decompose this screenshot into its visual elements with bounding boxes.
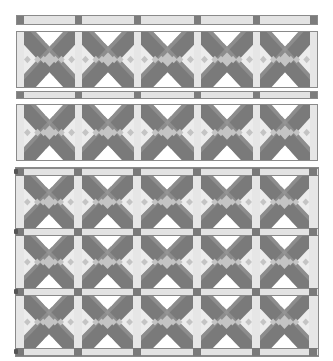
edge-marker: [14, 349, 18, 354]
cornerstone: [252, 228, 260, 236]
cornerstone: [193, 168, 201, 176]
vertical-sashing: [133, 236, 141, 288]
vertical-sashing: [310, 32, 318, 88]
cornerstone: [309, 168, 317, 176]
cornerstone: [193, 228, 201, 236]
vertical-sashing: [253, 32, 260, 88]
horizontal-sashing: [16, 168, 318, 176]
cornerstone: [134, 16, 141, 24]
vertical-sashing: [74, 296, 82, 348]
cornerstone: [74, 168, 82, 176]
quilt-block: [24, 296, 74, 348]
quilt-block: [24, 32, 75, 87]
cornerstone: [133, 348, 141, 356]
vertical-sashing: [194, 32, 201, 88]
cornerstone: [133, 168, 141, 176]
cornerstone: [253, 92, 260, 98]
quilt-block: [141, 176, 193, 228]
cornerstone: [252, 348, 260, 356]
cornerstone: [309, 348, 317, 356]
edge-marker: [14, 289, 18, 294]
cornerstone: [134, 92, 141, 98]
vertical-sashing: [253, 105, 260, 161]
vertical-sashing: [133, 296, 141, 348]
quilt-block: [24, 105, 75, 160]
vertical-sashing: [75, 105, 82, 161]
cornerstone: [17, 92, 24, 98]
quilt-block: [141, 296, 193, 348]
vertical-sashing: [134, 105, 141, 161]
quilt-block: [260, 176, 309, 228]
vertical-sashing: [309, 296, 318, 348]
cornerstone: [253, 16, 260, 24]
cornerstone: [133, 288, 141, 296]
vertical-sashing: [310, 105, 318, 161]
cornerstone: [17, 16, 24, 24]
block-row-1: [16, 31, 318, 88]
vertical-sashing: [16, 176, 24, 228]
vertical-sashing: [17, 32, 24, 88]
cornerstone: [193, 288, 201, 296]
cornerstone: [74, 288, 82, 296]
horizontal-sashing: [16, 348, 318, 356]
horizontal-sashing: [16, 288, 318, 296]
quilt-block: [260, 105, 310, 160]
quilt-block: [201, 105, 253, 160]
vertical-sashing: [309, 176, 318, 228]
cornerstone: [310, 16, 317, 24]
vertical-sashing: [133, 176, 141, 228]
vertical-sashing: [309, 236, 318, 288]
horizontal-sashing: [16, 228, 318, 236]
quilt-block: [260, 32, 310, 87]
cornerstone: [309, 288, 317, 296]
vertical-sashing: [194, 105, 201, 161]
vertical-sashing: [16, 236, 24, 288]
vertical-sashing: [134, 32, 141, 88]
vertical-sashing: [17, 105, 24, 161]
cornerstone: [252, 288, 260, 296]
quilt-block: [260, 296, 309, 348]
quilt-block: [141, 105, 194, 160]
quilt-block: [141, 236, 193, 288]
vertical-sashing: [193, 176, 201, 228]
vertical-sashing: [16, 296, 24, 348]
cornerstone: [133, 228, 141, 236]
quilt-block: [141, 32, 194, 87]
quilt-block: [82, 105, 134, 160]
quilt-block: [201, 236, 252, 288]
vertical-sashing: [252, 176, 260, 228]
quilt-block: [201, 176, 252, 228]
cornerstone: [75, 16, 82, 24]
cornerstone: [74, 228, 82, 236]
cornerstone: [252, 168, 260, 176]
sashed-block-grid: [16, 168, 318, 356]
sashing-strip-middle: [16, 91, 318, 99]
vertical-sashing: [252, 296, 260, 348]
vertical-sashing: [252, 236, 260, 288]
quilt-block: [201, 296, 252, 348]
quilt-block: [82, 176, 133, 228]
cornerstone: [75, 92, 82, 98]
quilt-block: [24, 236, 74, 288]
quilt-block: [260, 236, 309, 288]
cornerstone: [74, 348, 82, 356]
quilt-block: [201, 32, 253, 87]
quilt-block: [82, 236, 133, 288]
cornerstone: [193, 348, 201, 356]
sashing-strip-top: [16, 15, 318, 25]
quilt-block: [82, 32, 134, 87]
edge-marker: [14, 229, 18, 234]
block-row-2: [16, 104, 318, 161]
edge-marker: [14, 169, 18, 174]
vertical-sashing: [193, 296, 201, 348]
quilt-block: [24, 176, 74, 228]
vertical-sashing: [74, 236, 82, 288]
vertical-sashing: [193, 236, 201, 288]
vertical-sashing: [74, 176, 82, 228]
vertical-sashing: [75, 32, 82, 88]
quilt-block: [82, 296, 133, 348]
cornerstone: [310, 92, 317, 98]
cornerstone: [309, 228, 317, 236]
cornerstone: [194, 92, 201, 98]
cornerstone: [194, 16, 201, 24]
